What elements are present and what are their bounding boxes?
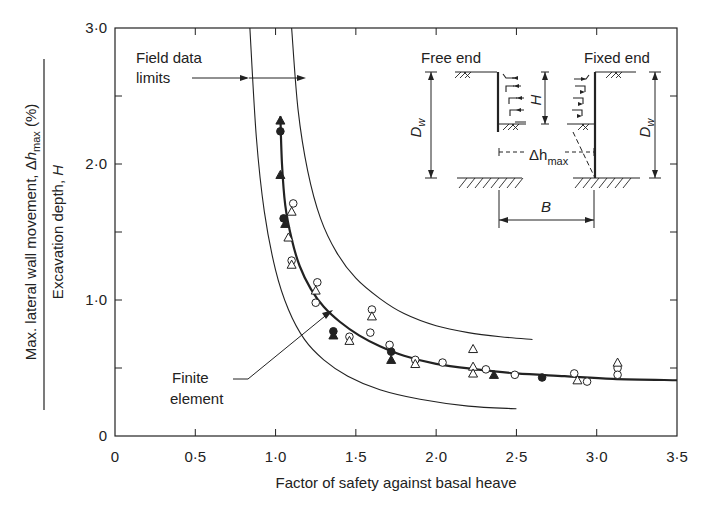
curve-field-data-limits-upper- xyxy=(292,28,533,339)
marker-circle-open xyxy=(511,371,519,379)
marker-circle-open xyxy=(482,366,490,374)
marker-triangle-open xyxy=(469,344,478,352)
curve-finite-element xyxy=(280,116,677,380)
marker-circle-open xyxy=(367,329,375,337)
x-tick-label: 0 xyxy=(111,448,119,465)
field-data-label-line2: limits xyxy=(136,69,170,86)
y-axis-numerator: Max. lateral wall movement, Δhmax (%) xyxy=(22,104,42,361)
inset-excavation-diagram: Free end Fixed end H xyxy=(407,49,661,228)
x-tick-label: 1·0 xyxy=(265,448,287,465)
marker-circle-filled xyxy=(538,374,546,382)
marker-circle-open xyxy=(439,359,447,367)
x-tick-label: 2·0 xyxy=(425,448,447,465)
y-tick-label: 2·0 xyxy=(85,155,107,172)
field-data-label-line1: Field data xyxy=(136,49,203,66)
data-markers xyxy=(276,116,622,385)
marker-circle-open xyxy=(614,371,622,379)
y-tick-label: 0 xyxy=(99,427,107,444)
x-tick-label: 0·5 xyxy=(184,448,206,465)
b-label: B xyxy=(541,198,551,215)
y-tick-label: 3·0 xyxy=(85,19,107,36)
chart-svg: 00·51·01·52·02·53·03·5 01·02·03·0 Factor… xyxy=(0,0,714,518)
dw-left-label: Dw xyxy=(407,118,427,138)
marker-triangle-open xyxy=(287,207,296,215)
marker-circle-filled xyxy=(277,128,285,136)
y-tick-label: 1·0 xyxy=(85,291,107,308)
marker-triangle-open xyxy=(613,358,622,366)
marker-triangle-open xyxy=(367,312,376,320)
x-tick-label: 2·5 xyxy=(506,448,528,465)
delta-h-max-label: Δhmax xyxy=(529,146,569,167)
marker-circle-open xyxy=(312,299,320,307)
marker-triangle-filled xyxy=(276,116,285,124)
x-tick-label: 3·0 xyxy=(586,448,608,465)
dw-right-label: Dw xyxy=(636,118,656,138)
curves xyxy=(250,28,677,409)
finite-element-label-line1: Finite xyxy=(172,369,209,386)
x-tick-label: 1·5 xyxy=(345,448,367,465)
y-axis-denominator: Excavation depth, H xyxy=(49,165,66,299)
finite-element-label-line2: element xyxy=(170,390,224,407)
free-end-label: Free end xyxy=(421,49,481,66)
marker-circle-open xyxy=(314,279,322,287)
field-data-limits-annotation: Field data limits xyxy=(136,49,306,86)
marker-triangle-filled xyxy=(387,355,396,363)
x-tick-label: 3·5 xyxy=(666,448,688,465)
h-label: H xyxy=(527,94,544,105)
x-axis-title: Factor of safety against basal heave xyxy=(276,474,517,491)
y-axis-title: Max. lateral wall movement, Δhmax (%) Ex… xyxy=(22,59,66,410)
marker-circle-open xyxy=(289,200,297,208)
finite-element-annotation: Finite element xyxy=(170,310,333,407)
marker-circle-open xyxy=(583,378,591,386)
fixed-end-label: Fixed end xyxy=(584,49,650,66)
